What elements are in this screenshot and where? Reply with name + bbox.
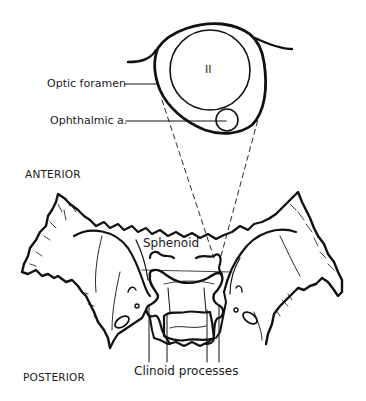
clinoid-processes-label: Clinoid processes (134, 365, 239, 377)
anterior-label: ANTERIOR (25, 169, 81, 180)
clinoid-leader-lines (149, 306, 219, 362)
sphenoid-illustration (0, 0, 366, 401)
sphenoid-bone (22, 192, 342, 348)
optic-foramen-label: Optic foramen (47, 78, 126, 89)
ophthalmic-artery-label: Ophthalmic a. (50, 115, 127, 126)
optic-foramen-inset (125, 24, 292, 258)
diagram-canvas: II Optic foramen Ophthalmic a. ANTERIOR … (0, 0, 366, 401)
posterior-label: POSTERIOR (23, 372, 85, 383)
sphenoid-label: Sphenoid (143, 237, 199, 249)
optic-nerve-label: II (205, 64, 212, 75)
